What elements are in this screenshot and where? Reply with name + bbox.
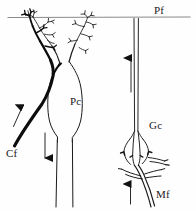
label-granule-cell: Gc: [149, 120, 162, 131]
cerebellar-circuit-figure: Pf Pc Cf Gc Mf: [0, 0, 196, 212]
label-climbing-fiber: Cf: [6, 148, 17, 159]
circuit-drawing: [0, 0, 196, 212]
label-purkinje-cell: Pc: [70, 96, 81, 107]
granule-cell: [121, 19, 170, 166]
label-parallel-fiber: Pf: [154, 5, 164, 16]
mossy-fiber: [118, 165, 164, 207]
climbing-fiber-arrow: [14, 108, 23, 127]
purkinje-cell: [25, 10, 96, 207]
label-mossy-fiber: Mf: [156, 189, 170, 200]
climbing-fiber: [15, 9, 62, 146]
parallel-fiber-line: [8, 17, 190, 18]
